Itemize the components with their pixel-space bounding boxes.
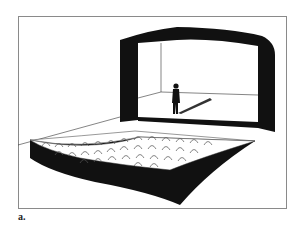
figure-caption: a. [18, 211, 26, 223]
stage-floor-line-left [138, 92, 161, 98]
theater-illustration [0, 0, 306, 226]
proscenium-arch [120, 27, 275, 132]
figure-shadow [178, 98, 212, 114]
standing-figure [172, 83, 180, 114]
stage-edge [138, 117, 258, 128]
